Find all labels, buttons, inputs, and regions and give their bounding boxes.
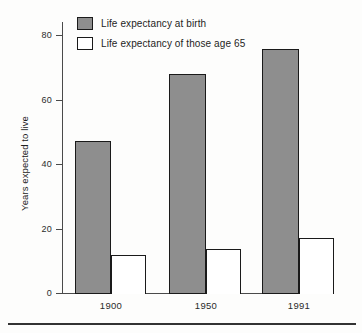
legend-swatch-white-icon bbox=[77, 37, 93, 50]
legend-label-age65: Life expectancy of those age 65 bbox=[101, 38, 245, 49]
x-tick-label-1991: 1991 bbox=[264, 300, 334, 311]
bar-chart-figure: 80 60 40 20 0 Years expected to live 190… bbox=[0, 0, 362, 333]
y-tick-label-80: 80 bbox=[12, 30, 52, 40]
bar-birth-1950 bbox=[169, 74, 206, 294]
legend-item-age65: Life expectancy of those age 65 bbox=[77, 34, 245, 52]
x-tick-label-1950: 1950 bbox=[171, 300, 241, 311]
page-divider-rule bbox=[8, 323, 356, 325]
chart-legend: Life expectancy at birth Life expectancy… bbox=[77, 14, 245, 54]
y-tick-0 bbox=[56, 293, 63, 294]
y-tick-20 bbox=[56, 229, 63, 230]
y-axis-line bbox=[62, 22, 63, 294]
legend-swatch-gray-icon bbox=[77, 17, 93, 30]
bar-age65-1991 bbox=[299, 238, 334, 294]
bar-age65-1900 bbox=[111, 255, 146, 294]
plot-area: 80 60 40 20 0 Years expected to live 190… bbox=[0, 0, 362, 333]
bar-birth-1900 bbox=[75, 141, 111, 294]
y-tick-60 bbox=[56, 100, 63, 101]
legend-item-birth: Life expectancy at birth bbox=[77, 14, 245, 32]
y-tick-40 bbox=[56, 164, 63, 165]
legend-label-birth: Life expectancy at birth bbox=[101, 18, 206, 29]
y-tick-80 bbox=[56, 35, 63, 36]
x-tick-label-1900: 1900 bbox=[76, 300, 146, 311]
bar-age65-1950 bbox=[206, 249, 241, 294]
y-tick-label-0: 0 bbox=[12, 288, 52, 298]
y-axis-title: Years expected to live bbox=[19, 74, 30, 254]
bar-birth-1991 bbox=[262, 49, 299, 294]
